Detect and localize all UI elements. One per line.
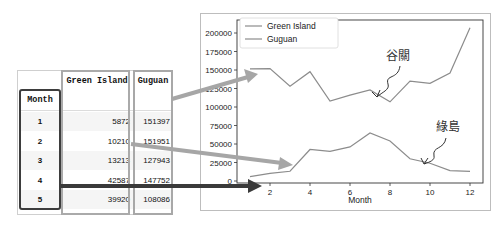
mapping-arrows [61, 69, 293, 193]
y-tick-label: 150000 [205, 66, 232, 75]
annotation-arrow-green-island [424, 138, 446, 164]
annotation-green-island: 綠島 [436, 119, 460, 134]
x-tick-label: 10 [426, 188, 435, 197]
x-tick-label: 8 [388, 188, 393, 197]
annotation-guguan: 谷關 [386, 49, 410, 63]
y-tick-label: 25000 [210, 159, 233, 168]
arrow-head-green-island [278, 157, 293, 170]
x-tick-label: 12 [466, 188, 475, 197]
x-axis-label: Month [348, 195, 372, 205]
legend-label-green-island: Green Island [267, 21, 316, 31]
arrow-head-month [248, 179, 262, 193]
chart-legend: Green Island Guguan [240, 18, 338, 48]
y-tick-label: 200000 [205, 29, 232, 38]
arrow-green-island-to-line [131, 144, 282, 163]
y-tick-label: 75000 [210, 122, 233, 131]
diagram-stage: Green IslandGuguanMonth15872151397210210… [0, 0, 503, 225]
y-tick-label: 100000 [205, 103, 232, 112]
arrow-head-guguan [244, 69, 258, 83]
y-tick-label: 50000 [210, 140, 233, 149]
line-chart: 0250005000075000100000125000150000175000… [0, 0, 503, 225]
series-line-green-island [250, 133, 470, 177]
y-tick-label: 175000 [205, 48, 232, 57]
x-tick-label: 2 [268, 188, 273, 197]
x-tick-label: 4 [308, 188, 313, 197]
annotation-arrow-guguan [377, 66, 400, 97]
chart-series [250, 28, 470, 177]
legend-label-guguan: Guguan [267, 34, 298, 44]
